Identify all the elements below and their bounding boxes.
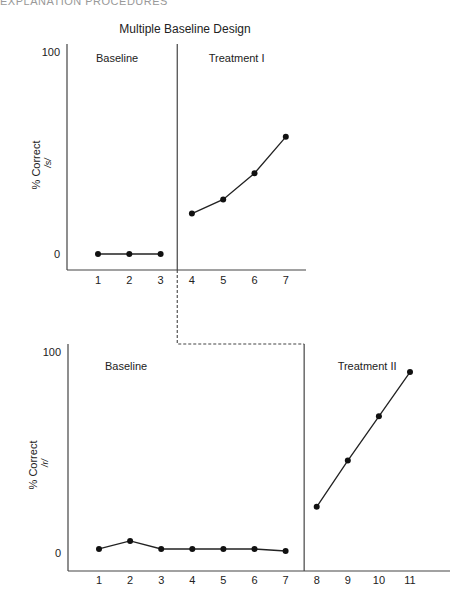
y-tick-label: 100 [43, 346, 61, 358]
data-point [252, 170, 258, 176]
data-point [345, 458, 351, 464]
x-tick-label: 11 [404, 574, 415, 586]
data-line [317, 372, 410, 507]
x-tick-label: 2 [127, 574, 133, 586]
data-point [95, 251, 101, 257]
phase-label: Baseline [96, 52, 138, 64]
x-tick-label: 1 [96, 574, 102, 586]
data-line [192, 137, 286, 214]
x-tick-label: 2 [126, 274, 132, 286]
chart-panel-1: 01001234567BaselineTreatment I% Correct/… [30, 44, 306, 286]
phase-label: Baseline [105, 360, 147, 372]
x-tick-label: 5 [220, 274, 226, 286]
x-tick-label: 3 [158, 574, 164, 586]
data-point [189, 211, 195, 217]
x-tick-label: 8 [314, 574, 320, 586]
data-point [283, 548, 289, 554]
x-tick-label: 7 [283, 274, 289, 286]
data-point [96, 546, 102, 552]
y-axis-label: % Correct [27, 441, 39, 490]
data-point [376, 413, 382, 419]
x-tick-label: 7 [283, 574, 289, 586]
x-tick-label: 1 [95, 274, 101, 286]
x-tick-label: 10 [373, 574, 385, 586]
data-point [220, 546, 226, 552]
data-point [158, 251, 164, 257]
y-axis-label: % Correct [30, 141, 42, 190]
chart-panel-2: 01001234567891011BaselineTreatment II% C… [27, 344, 450, 586]
x-tick-label: 3 [158, 274, 164, 286]
data-point [127, 538, 133, 544]
x-tick-label: 6 [251, 274, 257, 286]
y-tick-label: 100 [42, 46, 60, 58]
multiple-baseline-chart: 01001234567BaselineTreatment I% Correct/… [0, 0, 473, 606]
phase-label: Treatment II [338, 360, 397, 372]
y-tick-label: 0 [55, 547, 61, 559]
y-tick-label: 0 [54, 248, 60, 260]
x-tick-label: 4 [189, 274, 195, 286]
data-point [314, 504, 320, 510]
y-axis-sublabel: /s/ [43, 157, 53, 169]
y-axis-sublabel: /r/ [40, 458, 50, 468]
data-point [189, 546, 195, 552]
data-point [407, 369, 413, 375]
data-point [283, 134, 289, 140]
data-point [158, 546, 164, 552]
x-tick-label: 4 [189, 574, 195, 586]
x-tick-label: 6 [251, 574, 257, 586]
data-point [252, 546, 258, 552]
x-tick-label: 9 [345, 574, 351, 586]
x-tick-label: 5 [220, 574, 226, 586]
data-point [220, 196, 226, 202]
phase-label: Treatment I [209, 52, 265, 64]
data-point [126, 251, 132, 257]
